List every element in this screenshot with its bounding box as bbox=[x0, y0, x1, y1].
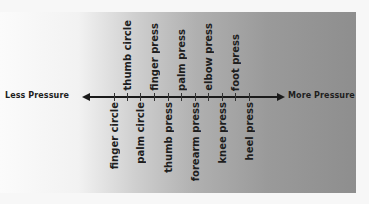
axis-tick bbox=[127, 93, 128, 101]
technique-label: finger press bbox=[149, 23, 160, 91]
axis-tick bbox=[181, 93, 182, 101]
axis-tick bbox=[235, 93, 236, 101]
pressure-axis bbox=[86, 96, 280, 98]
axis-tick bbox=[140, 93, 141, 101]
axis-tick bbox=[195, 93, 196, 101]
technique-label: foot press bbox=[230, 34, 241, 91]
more-pressure-label: More Pressure bbox=[288, 91, 355, 100]
right-arrowhead-icon bbox=[277, 93, 285, 101]
axis-tick bbox=[154, 93, 155, 101]
technique-label: elbow press bbox=[203, 23, 214, 91]
technique-label: forearm press bbox=[190, 102, 201, 181]
technique-label: thumb press bbox=[163, 102, 174, 173]
technique-label: palm press bbox=[176, 29, 187, 91]
axis-tick bbox=[249, 93, 250, 101]
axis-tick bbox=[168, 93, 169, 101]
axis-tick bbox=[222, 93, 223, 101]
technique-label: palm circle bbox=[135, 102, 146, 164]
technique-label: knee press bbox=[217, 102, 228, 164]
technique-label: heel press bbox=[244, 102, 255, 160]
axis-tick bbox=[208, 93, 209, 101]
less-pressure-label: Less Pressure bbox=[5, 91, 69, 100]
axis-tick bbox=[114, 93, 115, 101]
technique-label: finger circle bbox=[109, 102, 120, 169]
technique-label: thumb circle bbox=[122, 20, 133, 91]
